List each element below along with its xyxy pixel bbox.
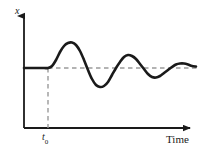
damped-oscillation-curve bbox=[24, 42, 196, 87]
y-axis-label: x bbox=[15, 6, 19, 16]
x-axis-label: Time bbox=[166, 134, 189, 145]
t0-subscript: 0 bbox=[45, 138, 49, 146]
damped-oscillation-figure: x Time t0 bbox=[0, 0, 210, 152]
plot-canvas bbox=[0, 0, 210, 152]
t0-tick-label: t0 bbox=[42, 132, 48, 145]
